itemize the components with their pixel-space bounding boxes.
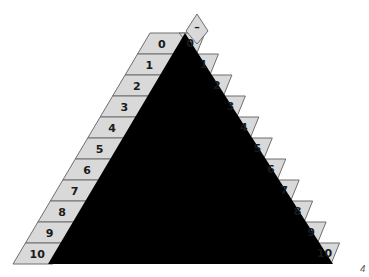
right-tab-label: 0 xyxy=(186,37,194,50)
right-tab-label: 1 xyxy=(200,58,208,71)
top-tab-label: – xyxy=(194,21,200,34)
left-tab-label: 8 xyxy=(58,206,66,219)
left-tab-label: 4 xyxy=(108,122,116,135)
right-tab-label: 9 xyxy=(307,226,315,239)
left-tab-label: 5 xyxy=(96,143,104,156)
left-tab-label: 6 xyxy=(83,164,91,177)
left-tab-label: 3 xyxy=(121,101,129,114)
right-tab-label: 7 xyxy=(280,184,288,197)
left-tab-label: 2 xyxy=(133,80,141,93)
left-tab-label: 0 xyxy=(158,38,166,51)
left-tab-label: 10 xyxy=(30,248,46,261)
left-tab-label: 9 xyxy=(46,227,54,240)
right-tab-label: 8 xyxy=(294,205,302,218)
triangle-diagram: 012345678910 – 012345678910 4 xyxy=(0,0,369,277)
right-tab-label: 2 xyxy=(213,79,221,92)
corner-label: 4 xyxy=(360,264,366,274)
left-tab-label: 1 xyxy=(145,59,153,72)
right-tab-label: 5 xyxy=(253,142,261,155)
right-tab-label: 10 xyxy=(317,247,333,260)
right-tab-label: 4 xyxy=(240,121,248,134)
left-tab-label: 7 xyxy=(71,185,79,198)
right-tab-label: 6 xyxy=(267,163,275,176)
right-tab-label: 3 xyxy=(227,100,235,113)
